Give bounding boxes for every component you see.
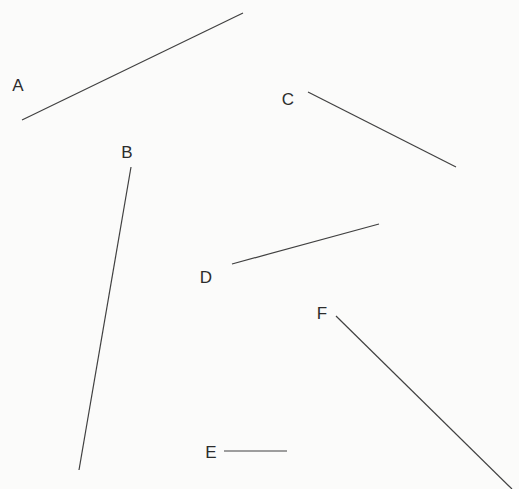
segment-label-f: F <box>317 305 328 322</box>
line-segment-figure-canvas: ABCDEF <box>0 0 519 489</box>
segment-label-a: A <box>12 77 24 94</box>
line-segment-f <box>336 316 512 489</box>
segment-group <box>22 13 512 489</box>
line-segments-svg <box>0 0 519 489</box>
segment-label-d: D <box>200 269 212 286</box>
line-segment-c <box>308 92 456 167</box>
segment-label-c: C <box>282 91 294 108</box>
segment-label-e: E <box>205 444 217 461</box>
line-segment-a <box>22 13 243 120</box>
segment-label-b: B <box>121 144 133 161</box>
line-segment-d <box>232 224 379 264</box>
line-segment-b <box>79 167 131 470</box>
